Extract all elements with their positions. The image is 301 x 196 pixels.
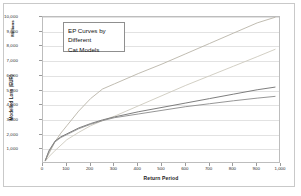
annotation-line-3: Cat Models [68, 45, 124, 54]
series-line [45, 87, 275, 160]
y-tick-label: 7,000 [0, 60, 18, 65]
y-tick-label: 8,000 [0, 45, 18, 50]
y-tick-label: 6,000 [0, 75, 18, 80]
y-tick-label: 10,000 [0, 16, 18, 21]
series-line [45, 49, 275, 161]
y-tick-label: 5,000 [0, 90, 18, 95]
x-axis-title: Return Period [42, 175, 280, 181]
annotation-textbox: EP Curves by Different Cat Models [63, 22, 125, 52]
annotation-line-2: Different [68, 35, 124, 44]
annotation-line-1: EP Curves by [68, 26, 124, 35]
chart-container: Millions Modelled Loss (EUR) 1,0002,0003… [0, 0, 301, 196]
y-tick-label: 9,000 [0, 31, 18, 36]
y-tick-label: 2,000 [0, 134, 18, 139]
x-tick-label: 1,000 [260, 166, 300, 171]
y-tick-label: 1,000 [0, 148, 18, 153]
series-line [45, 96, 275, 160]
y-tick-label: 4,000 [0, 104, 18, 109]
y-tick-label: 3,000 [0, 119, 18, 124]
